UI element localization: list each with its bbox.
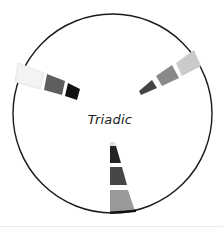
triadic-color-diagram: Triadic xyxy=(0,0,223,230)
diagram-title: Triadic xyxy=(88,112,132,127)
color-wheel-svg: Triadic xyxy=(0,0,223,230)
bottom-divider xyxy=(0,226,223,227)
wedge-bottom-tip xyxy=(110,142,116,146)
